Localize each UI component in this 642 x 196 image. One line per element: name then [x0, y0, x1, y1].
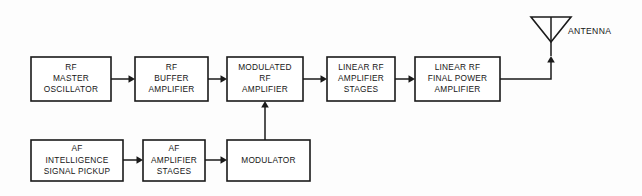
block-label-line: MODULATOR	[241, 155, 296, 165]
block-label-line: SIGNAL PICKUP	[44, 166, 111, 176]
connector-final-to-antenna	[500, 56, 555, 79]
connector-linear-to-final	[395, 75, 415, 83]
block-label-line: INTELLIGENCE	[46, 155, 109, 165]
block-label-line: STAGES	[344, 84, 379, 94]
connector-buffer-to-modulated	[208, 75, 227, 83]
block-label-line: AF	[168, 143, 179, 153]
block-rf-master-oscillator: RFMASTEROSCILLATOR	[31, 57, 111, 101]
block-modulator: MODULATOR	[227, 140, 310, 181]
block-modulated-rf-amplifier: MODULATEDRFAMPLIFIER	[227, 57, 303, 101]
block-label-line: AMPLIFIER	[151, 155, 197, 165]
block-label-line: MODULATED	[238, 62, 292, 72]
block-label-line: LINEAR RF	[435, 62, 481, 72]
block-label-line: MASTER	[53, 73, 89, 83]
antenna-icon	[531, 17, 571, 56]
block-label-line: BUFFER	[154, 73, 189, 83]
block-label-line: RF	[166, 62, 178, 72]
block-af-amplifier-stages: AFAMPLIFIERSTAGES	[143, 140, 205, 181]
connector-pickup-to-af-amp	[123, 156, 143, 164]
block-label-line: AMPLIFIER	[242, 84, 288, 94]
connector-modulator-to-modulated	[261, 101, 269, 140]
block-diagram-svg: RFMASTEROSCILLATORRFBUFFERAMPLIFIERMODUL…	[0, 0, 642, 196]
block-label-line: AF	[71, 143, 82, 153]
block-label-line: AMPLIFIER	[434, 84, 480, 94]
block-label-line: AMPLIFIER	[338, 73, 384, 83]
block-label-line: LINEAR RF	[338, 62, 384, 72]
connector-af-amp-to-modulator	[205, 156, 227, 164]
connector-modulated-to-linear	[303, 75, 327, 83]
block-linear-rf-final-power-amplifier: LINEAR RFFINAL POWERAMPLIFIER	[415, 57, 500, 101]
block-rf-buffer-amplifier: RFBUFFERAMPLIFIER	[135, 57, 208, 101]
block-diagram-canvas: RFMASTEROSCILLATORRFBUFFERAMPLIFIERMODUL…	[0, 0, 642, 196]
antenna-label: ANTENNA	[568, 26, 611, 36]
block-label-line: FINAL POWER	[428, 73, 488, 83]
block-label-line: STAGES	[157, 166, 192, 176]
block-label-line: RF	[259, 73, 271, 83]
block-af-intelligence-signal-pickup: AFINTELLIGENCESIGNAL PICKUP	[31, 140, 123, 181]
block-label-line: RF	[65, 62, 77, 72]
block-label-line: AMPLIFIER	[148, 84, 194, 94]
block-linear-rf-amplifier-stages: LINEAR RFAMPLIFIERSTAGES	[327, 57, 395, 101]
connector-osc-to-buffer	[111, 75, 135, 83]
block-label-line: OSCILLATOR	[44, 84, 98, 94]
